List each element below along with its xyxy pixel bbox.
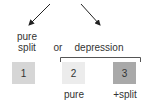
box-2-number: 2 — [71, 68, 77, 79]
box-2-caption: pure — [58, 89, 90, 100]
box-1-number: 1 — [21, 68, 27, 79]
depression-label: depression — [70, 42, 128, 53]
box-3: 3 — [113, 62, 136, 84]
pure-text: pure — [12, 31, 42, 42]
box-3-number: 3 — [122, 68, 128, 79]
box-1: 1 — [12, 62, 35, 84]
split-text: split — [12, 42, 42, 53]
pure-split-label: pure split — [12, 31, 42, 53]
box-2: 2 — [62, 62, 85, 84]
or-label: or — [50, 42, 66, 53]
right-arrow-icon — [81, 4, 100, 25]
box-3-caption: +split — [108, 89, 142, 100]
left-arrow-icon — [29, 4, 50, 25]
